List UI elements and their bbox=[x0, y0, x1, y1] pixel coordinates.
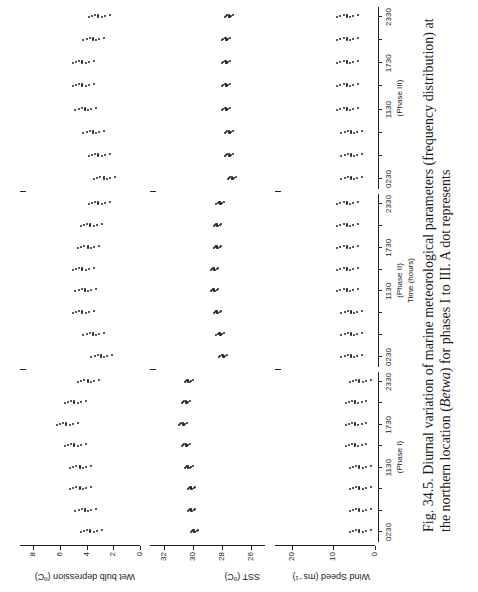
data-dot bbox=[79, 486, 81, 488]
data-dot bbox=[357, 223, 359, 225]
data-dot bbox=[340, 132, 342, 134]
phase-separator bbox=[275, 191, 281, 192]
phase-label: (Phase III) bbox=[395, 58, 404, 138]
data-dot bbox=[93, 310, 95, 312]
data-dot bbox=[70, 400, 72, 402]
data-dot bbox=[346, 14, 348, 16]
data-dot bbox=[77, 402, 79, 404]
data-dot bbox=[106, 178, 108, 180]
data-dot bbox=[365, 487, 367, 489]
data-dot bbox=[356, 154, 358, 156]
data-dot bbox=[356, 131, 358, 133]
data-dot bbox=[192, 465, 194, 467]
y-tick-label: 26 bbox=[246, 552, 255, 572]
data-dot bbox=[74, 109, 76, 111]
data-dot bbox=[90, 465, 92, 467]
data-dot bbox=[370, 465, 372, 467]
data-dot bbox=[88, 203, 90, 205]
data-dot bbox=[365, 400, 367, 402]
data-dot bbox=[352, 509, 354, 511]
x-tick bbox=[378, 467, 382, 468]
data-dot bbox=[78, 310, 80, 312]
data-dot bbox=[356, 333, 358, 335]
data-dot bbox=[349, 510, 351, 512]
data-dot bbox=[339, 61, 341, 63]
data-dot bbox=[351, 443, 353, 445]
data-dot bbox=[349, 247, 351, 249]
data-dot bbox=[78, 267, 80, 269]
data-dot bbox=[357, 201, 359, 203]
data-dot bbox=[352, 246, 354, 248]
data-dot bbox=[69, 424, 71, 426]
data-dot bbox=[194, 508, 196, 510]
x-tick bbox=[378, 247, 382, 248]
x-tick bbox=[378, 155, 382, 156]
data-dot bbox=[192, 379, 194, 381]
data-dot bbox=[88, 268, 90, 270]
data-dot bbox=[83, 530, 85, 532]
x-tick bbox=[378, 62, 382, 63]
data-dot bbox=[357, 37, 359, 39]
data-dot bbox=[352, 108, 354, 110]
data-dot bbox=[344, 154, 346, 156]
data-dot bbox=[87, 245, 89, 247]
data-dot bbox=[93, 380, 95, 382]
data-dot bbox=[356, 355, 358, 357]
x-tick bbox=[378, 445, 382, 446]
data-dot bbox=[217, 267, 219, 269]
data-dot bbox=[345, 424, 347, 426]
data-dot bbox=[93, 225, 95, 227]
data-dot bbox=[220, 223, 222, 225]
data-dot bbox=[339, 268, 341, 270]
data-dot bbox=[186, 422, 188, 424]
data-dot bbox=[94, 355, 96, 357]
data-dot bbox=[339, 38, 341, 40]
data-dot bbox=[353, 155, 355, 157]
data-dot bbox=[109, 201, 111, 203]
data-dot bbox=[349, 109, 351, 111]
data-dot bbox=[111, 354, 113, 356]
data-dot bbox=[78, 83, 80, 85]
data-dot bbox=[343, 14, 345, 16]
data-dot bbox=[229, 83, 231, 85]
data-dot bbox=[348, 423, 350, 425]
data-dot bbox=[80, 225, 82, 227]
x-tick bbox=[378, 109, 382, 110]
data-dot bbox=[347, 332, 349, 334]
data-dot bbox=[78, 289, 80, 291]
data-dot bbox=[355, 508, 357, 510]
data-dot bbox=[361, 130, 363, 132]
data-dot bbox=[357, 83, 359, 85]
data-dot bbox=[344, 131, 346, 133]
data-dot bbox=[69, 488, 71, 490]
x-tick bbox=[378, 531, 382, 532]
data-dot bbox=[357, 424, 359, 426]
data-dot bbox=[340, 155, 342, 157]
x-tick bbox=[378, 510, 382, 511]
data-dot bbox=[90, 509, 92, 511]
data-dot bbox=[349, 85, 351, 87]
data-dot bbox=[98, 379, 100, 381]
data-dot bbox=[339, 108, 341, 110]
data-dot bbox=[365, 530, 367, 532]
data-dot bbox=[340, 334, 342, 336]
data-dot bbox=[70, 443, 72, 445]
data-dot bbox=[358, 465, 360, 467]
y-tick bbox=[33, 546, 34, 550]
x-tick bbox=[378, 132, 382, 133]
data-dot bbox=[353, 132, 355, 134]
data-dot bbox=[336, 62, 338, 64]
data-dot bbox=[72, 269, 74, 271]
data-dot bbox=[357, 245, 359, 247]
data-dot bbox=[350, 130, 352, 132]
data-dot bbox=[84, 508, 86, 510]
data-dot bbox=[365, 509, 367, 511]
data-dot bbox=[349, 488, 351, 490]
data-dot bbox=[72, 487, 74, 489]
data-dot bbox=[75, 61, 77, 63]
data-dot bbox=[345, 402, 347, 404]
x-tick bbox=[378, 488, 382, 489]
y-tick bbox=[193, 546, 194, 550]
data-dot bbox=[370, 486, 372, 488]
data-dot bbox=[352, 289, 354, 291]
